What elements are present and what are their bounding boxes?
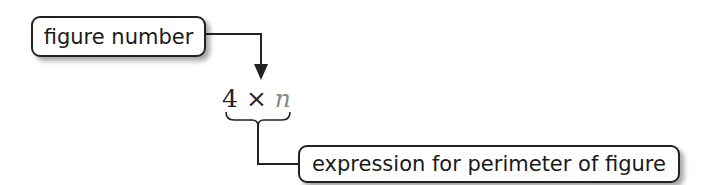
perimeter-expression-label: expression for perimeter of figure: [298, 145, 680, 183]
math-expression: 4×n: [222, 84, 291, 113]
arrow-down-icon: [254, 64, 268, 80]
multiply-operator: ×: [246, 84, 267, 113]
perimeter-expression-text: expression for perimeter of figure: [312, 152, 666, 176]
figure-number-text: figure number: [44, 25, 194, 49]
figure-number-label: figure number: [31, 16, 206, 57]
brace-icon: [226, 112, 290, 126]
variable: n: [275, 84, 291, 113]
coefficient: 4: [222, 84, 238, 113]
